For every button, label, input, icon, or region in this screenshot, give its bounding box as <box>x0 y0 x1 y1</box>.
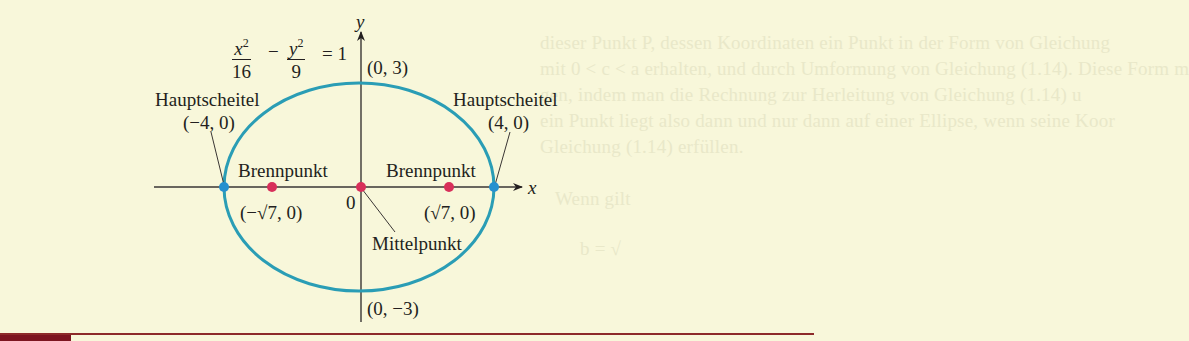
right-vertex-title: Hauptscheitel <box>453 90 557 109</box>
bottom-accent-bar <box>0 335 71 341</box>
equation-rhs: = 1 <box>322 44 347 63</box>
center-title: Mittelpunkt <box>372 234 462 253</box>
right-vertex-dot <box>489 182 499 192</box>
left-vertex-dot <box>219 182 229 192</box>
left-vertex-coord: (−4, 0) <box>183 113 235 132</box>
right-vertex-coord: (4, 0) <box>488 113 529 132</box>
equation-operator: − <box>268 42 279 61</box>
bottom-divider <box>0 333 814 335</box>
center-dot <box>356 182 366 192</box>
equation-x-term: x2 16 <box>232 37 251 81</box>
left-vertex-title: Hauptscheitel <box>155 90 259 109</box>
equation-y-term: y2 9 <box>287 37 305 81</box>
right-focus-title: Brennpunkt <box>386 161 476 180</box>
left-focus-coord: (−√7, 0) <box>240 203 302 222</box>
origin-label: 0 <box>346 193 356 212</box>
top-vertex-coord: (0, 3) <box>367 58 408 77</box>
left-focus-title: Brennpunkt <box>238 161 328 180</box>
right-focus-dot <box>444 182 454 192</box>
bottom-vertex-coord: (0, −3) <box>367 299 419 318</box>
left-focus-dot <box>267 182 277 192</box>
leader-line-right-vertex <box>495 132 510 185</box>
x-axis-label: x <box>528 178 536 197</box>
y-axis-label: y <box>356 12 364 31</box>
right-focus-coord: (√7, 0) <box>424 203 476 222</box>
leader-line-center <box>362 189 395 232</box>
leader-line-left-vertex <box>211 132 224 185</box>
